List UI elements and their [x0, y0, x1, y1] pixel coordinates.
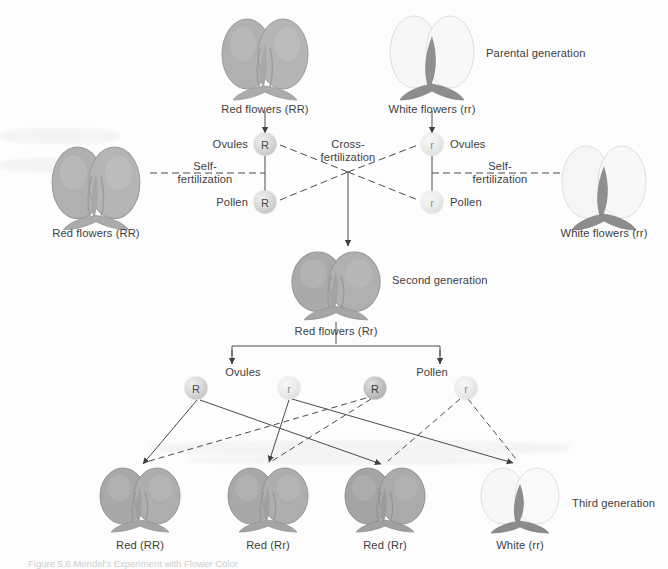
label-self-fertilization-left-line2: fertilization [178, 173, 233, 186]
gamete-parental-red-ovule[interactable]: R [254, 133, 277, 156]
dash-cross-a2 [348, 172, 418, 200]
label-cross-fertilization-line1: Cross- [331, 138, 365, 151]
flower-third-gen-3 [342, 466, 428, 538]
flower-self-fert-red [48, 142, 144, 240]
gamete-second-gen-ovule-R[interactable]: R [185, 377, 208, 400]
figure-caption: Figure 5.6 Mendel's Experiment with Flow… [28, 558, 238, 569]
label-pollen-red-parent: Pollen [216, 196, 248, 209]
gamete-second-gen-ovule-r[interactable]: r [278, 377, 301, 400]
scan-smudge [150, 440, 570, 456]
label-third-generation: Third generation [572, 497, 655, 510]
scan-smudge [190, 455, 520, 465]
label-ovules-white-parent: Ovules [450, 138, 485, 151]
gamete-parental-red-pollen[interactable]: R [254, 191, 277, 214]
gamete-parental-white-ovule[interactable]: r [421, 133, 444, 156]
bracket-second-gen-gametes [232, 346, 440, 356]
label-right-self-fert-flower: White flowers (rr) [561, 227, 648, 240]
flower-self-fert-white [557, 140, 651, 240]
genetics-diagram: R R r r R r R r Red flowers (RR) White f… [0, 0, 668, 569]
label-self-fertilization-left-line1: Self- [193, 160, 217, 173]
label-ovules-second-gen: Ovules [225, 366, 260, 379]
label-second-generation-flower: Red flowers (Rr) [294, 325, 377, 338]
label-pollen-white-parent: Pollen [450, 196, 482, 209]
gamete-second-gen-pollen-R[interactable]: R [364, 377, 387, 400]
line-R-ovule-to-RR [143, 400, 197, 464]
label-ovules-red-parent: Ovules [213, 138, 248, 151]
label-third-gen-offspring-2: Red (Rr) [246, 539, 290, 552]
label-third-gen-offspring-4: White (rr) [496, 539, 544, 552]
label-second-generation: Second generation [392, 274, 488, 287]
label-left-self-fert-flower: Red flowers (RR) [52, 227, 139, 240]
label-parental-generation: Parental generation [486, 47, 586, 60]
label-third-gen-offspring-1: Red (RR) [116, 539, 164, 552]
dash-cross-b1 [280, 172, 348, 200]
label-parental-white-flower: White flowers (rr) [389, 103, 476, 116]
label-cross-fertilization-line2: fertilization [321, 151, 376, 164]
flower-third-gen-2 [225, 466, 311, 538]
flower-second-generation [288, 249, 384, 327]
flower-third-gen-1 [97, 466, 183, 538]
label-pollen-second-gen: Pollen [416, 366, 448, 379]
label-parental-red-flower: Red flowers (RR) [221, 103, 308, 116]
label-self-fertilization-right-line2: fertilization [473, 173, 528, 186]
label-third-gen-offspring-3: Red (Rr) [363, 539, 407, 552]
flower-parental-white [386, 10, 478, 110]
label-self-fertilization-right-line1: Self- [488, 160, 512, 173]
flower-parental-red [219, 14, 311, 110]
gamete-parental-white-pollen[interactable]: r [421, 191, 444, 214]
gamete-second-gen-pollen-r[interactable]: r [455, 377, 478, 400]
flower-third-gen-4 [477, 466, 563, 538]
